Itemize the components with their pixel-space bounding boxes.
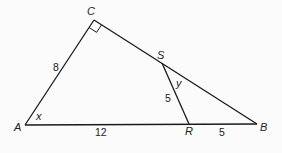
- label-length-rb: 5: [219, 126, 225, 138]
- label-length-ac: 8: [53, 61, 59, 73]
- label-angle-x: x: [35, 110, 42, 122]
- label-length-ar: 12: [95, 126, 107, 138]
- label-vertex-a: A: [13, 121, 21, 133]
- label-vertex-b: B: [260, 121, 267, 133]
- label-vertex-r: R: [185, 125, 193, 137]
- label-vertex-c: C: [87, 5, 95, 17]
- segment-cb: [94, 20, 257, 124]
- segment-ab: [25, 124, 257, 125]
- label-vertex-s: S: [157, 49, 165, 61]
- geometry-diagram: C A B S R 8 12 5 5 x y: [0, 0, 282, 153]
- right-angle-marker: [89, 25, 102, 33]
- label-length-sr: 5: [165, 92, 171, 104]
- label-angle-y: y: [175, 77, 183, 89]
- triangle-figure: C A B S R 8 12 5 5 x y: [0, 0, 282, 153]
